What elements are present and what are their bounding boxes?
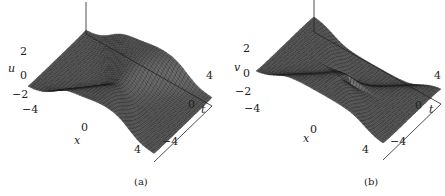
caption-a: (a) bbox=[134, 176, 148, 187]
z-tick-0: 0 bbox=[20, 70, 27, 81]
x-axis-label: x bbox=[303, 133, 309, 144]
caption-b: (b) bbox=[364, 176, 378, 187]
z-tick-2: 2 bbox=[243, 43, 250, 54]
z-tick-2: 2 bbox=[20, 46, 27, 57]
x-tick-4: 4 bbox=[134, 144, 141, 155]
x-axis-label: x bbox=[74, 135, 80, 146]
x-tick-0: 0 bbox=[310, 124, 317, 135]
t-axis-label: t bbox=[429, 104, 433, 115]
z-tick-neg2: −2 bbox=[12, 89, 28, 100]
surface-plot-a: 2 u 0 −2 −4 0 x 4 4 0 t −4 (a) bbox=[0, 0, 222, 196]
z-tick-0: 0 bbox=[243, 68, 250, 79]
z-tick-neg2: −2 bbox=[235, 86, 251, 97]
t-tick-neg4: −4 bbox=[162, 136, 178, 147]
x-tick-4: 4 bbox=[362, 144, 369, 155]
x-tick-0: 0 bbox=[81, 122, 88, 133]
surface-plot-b: 2 v 0 −2 −4 0 x 4 4 0 t −4 (b) bbox=[222, 0, 444, 196]
t-tick-4: 4 bbox=[206, 70, 213, 81]
t-tick-4: 4 bbox=[434, 70, 441, 81]
t-tick-neg4: −4 bbox=[390, 136, 406, 147]
x-tick-neg4: −4 bbox=[244, 103, 260, 114]
z-axis-label: v bbox=[234, 62, 240, 73]
t-tick-0: 0 bbox=[415, 100, 422, 111]
surface-mesh-b bbox=[222, 0, 444, 196]
z-axis-label: u bbox=[8, 63, 15, 74]
t-tick-0: 0 bbox=[188, 99, 195, 110]
t-axis-label: t bbox=[201, 104, 205, 115]
x-tick-neg4: −4 bbox=[22, 104, 38, 115]
